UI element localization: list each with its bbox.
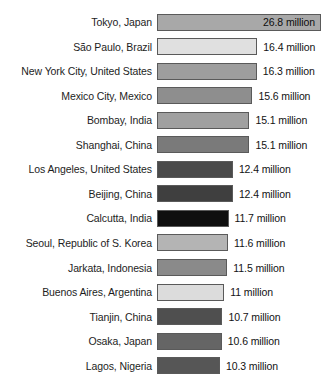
bar [157, 259, 227, 276]
bar: 26.8 million [157, 14, 321, 31]
bar-track: 10.7 million [157, 307, 332, 327]
bar-row: Los Angeles, United States12.4 million [0, 159, 332, 179]
category-label: São Paulo, Brazil [0, 37, 157, 57]
category-label: Osaka, Japan [0, 331, 157, 351]
bar [157, 38, 257, 55]
bar [157, 234, 228, 251]
bar-row: Tokyo, Japan26.8 million [0, 12, 332, 32]
value-label: 10.3 million [220, 356, 278, 376]
value-label: 26.8 million [263, 12, 320, 32]
bar [157, 357, 220, 374]
bar-row: Buenos Aires, Argentina11 million [0, 282, 332, 302]
bar-track: 26.8 million [157, 12, 332, 32]
value-label: 11.6 million [228, 233, 285, 253]
category-label: Los Angeles, United States [0, 159, 157, 179]
bar [157, 185, 233, 202]
bar-row: Beijing, China12.4 million [0, 184, 332, 204]
category-label: Tianjin, China [0, 307, 157, 327]
bar [157, 87, 252, 104]
value-label: 11 million [224, 282, 273, 302]
value-label: 15.1 million [249, 135, 307, 155]
bar-track: 11.7 million [157, 208, 332, 228]
category-label: Beijing, China [0, 184, 157, 204]
bar-track: 16.3 million [157, 61, 332, 81]
bar-track: 12.4 million [157, 159, 332, 179]
bar-row: Calcutta, India11.7 million [0, 208, 332, 228]
bar [157, 308, 222, 325]
bar-row: Jarkata, Indonesia11.5 million [0, 258, 332, 278]
category-label: Lagos, Nigeria [0, 356, 157, 376]
category-label: Tokyo, Japan [0, 12, 157, 32]
category-label: New York City, United States [0, 61, 157, 81]
bar-track: 15.1 million [157, 110, 332, 130]
category-label: Mexico City, Mexico [0, 86, 157, 106]
bar-row: Tianjin, China10.7 million [0, 307, 332, 327]
bar [157, 333, 222, 350]
bar [157, 284, 224, 301]
bar-row: São Paulo, Brazil16.4 million [0, 37, 332, 57]
value-label: 10.7 million [222, 307, 280, 327]
bar-track: 15.6 million [157, 86, 332, 106]
category-label: Shanghai, China [0, 135, 157, 155]
bar [157, 161, 233, 178]
category-label: Bombay, India [0, 110, 157, 130]
bar-row: New York City, United States16.3 million [0, 61, 332, 81]
bar-row: Mexico City, Mexico15.6 million [0, 86, 332, 106]
bar-track: 11.6 million [157, 233, 332, 253]
bar [157, 136, 249, 153]
category-label: Buenos Aires, Argentina [0, 282, 157, 302]
value-label: 10.6 million [222, 331, 280, 351]
value-label: 15.1 million [249, 110, 307, 130]
bar-row: Lagos, Nigeria10.3 million [0, 356, 332, 376]
category-label: Calcutta, India [0, 208, 157, 228]
bar-row: Seoul, Republic of S. Korea11.6 million [0, 233, 332, 253]
category-label: Seoul, Republic of S. Korea [0, 233, 157, 253]
value-label: 15.6 million [252, 86, 310, 106]
bar-track: 16.4 million [157, 37, 332, 57]
bar-row: Bombay, India15.1 million [0, 110, 332, 130]
bar-track: 11 million [157, 282, 332, 302]
population-bar-chart: Tokyo, Japan26.8 millionSão Paulo, Brazi… [0, 0, 332, 379]
bar-track: 15.1 million [157, 135, 332, 155]
value-label: 11.5 million [227, 258, 284, 278]
bar [157, 210, 229, 227]
bar-track: 10.6 million [157, 331, 332, 351]
value-label: 12.4 million [233, 184, 291, 204]
bar-row: Osaka, Japan10.6 million [0, 331, 332, 351]
bar-track: 12.4 million [157, 184, 332, 204]
bar-track: 10.3 million [157, 356, 332, 376]
value-label: 16.4 million [257, 37, 315, 57]
bar [157, 112, 249, 129]
category-label: Jarkata, Indonesia [0, 258, 157, 278]
value-label: 12.4 million [233, 159, 291, 179]
bar-track: 11.5 million [157, 258, 332, 278]
bar-row: Shanghai, China15.1 million [0, 135, 332, 155]
bar [157, 63, 257, 80]
value-label: 16.3 million [257, 61, 315, 81]
value-label: 11.7 million [229, 208, 286, 228]
